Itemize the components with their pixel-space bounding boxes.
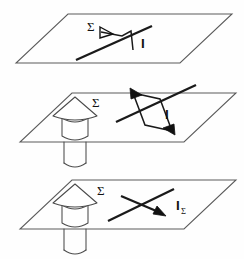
current-line-middle <box>116 85 196 122</box>
cone-cap-middle <box>53 97 97 120</box>
cone-cap-bottom <box>53 184 97 207</box>
current-label-group-bottom: I Σ <box>176 198 186 216</box>
figure-root: Σ I Σ <box>0 0 244 259</box>
sigma-label-middle: Σ <box>92 95 100 110</box>
lower-cylinder-bottom-cap-middle <box>64 163 86 167</box>
cancel-arrowhead-bottom <box>153 206 166 216</box>
plane-outline-bottom <box>20 180 236 229</box>
contour-arrowhead-lower-middle <box>163 124 175 135</box>
current-label-middle: I <box>165 107 169 122</box>
sigma-label-bottom: Σ <box>97 183 105 198</box>
panel-middle: Σ I <box>20 85 236 167</box>
cylinder-body-middle <box>62 118 88 140</box>
current-label-bottom: I <box>176 198 180 213</box>
sigma-label-top: Σ <box>87 19 95 34</box>
figure-canvas: Σ I Σ <box>0 0 244 259</box>
current-label-subscript-bottom: Σ <box>181 206 186 216</box>
lower-cylinder-bottom-cap-bottom <box>64 250 86 254</box>
panel-top: Σ I <box>16 14 232 63</box>
panel-bottom: Σ I Σ <box>20 180 236 254</box>
contour-arrowhead-upper-middle <box>130 88 142 99</box>
current-label-top: I <box>141 36 145 51</box>
cylinder-body-bottom <box>62 205 88 227</box>
